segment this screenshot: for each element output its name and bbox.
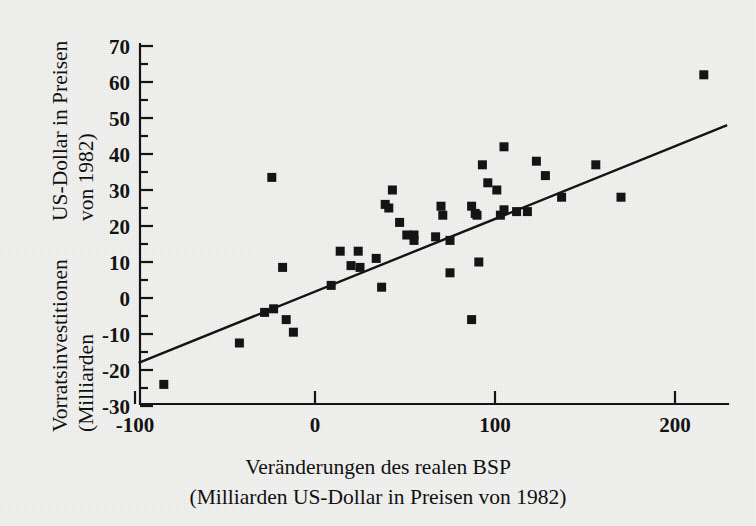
data-point (356, 263, 365, 272)
axes-group (140, 44, 728, 404)
x-tick-label-100: 100 (479, 413, 511, 437)
data-point (446, 268, 455, 277)
data-point (474, 258, 483, 267)
data-point (437, 202, 446, 211)
x-axis-title-line-2: (Milliarden US-Dollar in Preisen von 198… (0, 482, 756, 512)
data-point (438, 211, 447, 220)
data-point (269, 304, 278, 313)
data-point (388, 186, 397, 195)
data-point (467, 315, 476, 324)
data-point (336, 247, 345, 256)
data-point (523, 207, 532, 216)
y-axis-title: Vorratsinvestitionen (Milliarden US-Doll… (43, 12, 103, 432)
x-tick-label-200: 200 (659, 413, 691, 437)
data-point (500, 205, 509, 214)
data-point (699, 70, 708, 79)
data-point (159, 380, 168, 389)
data-point (591, 160, 600, 169)
data-point (384, 204, 393, 213)
x-axis-title-line-1: Veränderungen des realen BSP (0, 452, 756, 482)
y-tick-label-20: 20 (109, 215, 130, 239)
y-tick-label-60: 60 (109, 71, 130, 95)
data-point (347, 261, 356, 270)
data-point (289, 328, 298, 337)
data-point (446, 236, 455, 245)
data-point (492, 186, 501, 195)
scatter-plot: -30-20-10010203040506070-1000100200 (0, 0, 756, 526)
data-point (282, 315, 291, 324)
data-point (354, 247, 363, 256)
data-point (478, 160, 487, 169)
data-point (267, 173, 276, 182)
figure-canvas: -30-20-10010203040506070-1000100200 Vorr… (0, 0, 756, 526)
y-axis-title-line-1: Vorratsinvestitionen (Milliarden (47, 221, 99, 432)
tick-labels-group: -30-20-10010203040506070-1000100200 (102, 35, 691, 438)
data-point (473, 211, 482, 220)
regression-line (139, 125, 728, 363)
y-tick-label-50: 50 (109, 107, 130, 131)
data-point (532, 157, 541, 166)
data-point (327, 281, 336, 290)
y-tick-label-30: 30 (109, 179, 130, 203)
y-tick-label-40: 40 (109, 143, 130, 167)
x-tick-label-0: 0 (310, 413, 321, 437)
y-axis-title-line-2: US-Dollar in Preisen von 1982) (47, 12, 99, 221)
data-point (260, 308, 269, 317)
y-tick-label--10: -10 (102, 323, 130, 347)
data-point (235, 339, 244, 348)
y-tick-label--20: -20 (102, 359, 130, 383)
data-points-group (159, 70, 708, 389)
data-point (278, 263, 287, 272)
data-point (483, 178, 492, 187)
data-point (372, 254, 381, 263)
data-point (617, 193, 626, 202)
data-point (557, 193, 566, 202)
y-tick-label-70: 70 (109, 35, 130, 59)
x-tick-label--100: -100 (116, 413, 155, 437)
y-tick-label-0: 0 (120, 287, 131, 311)
data-point (395, 218, 404, 227)
x-axis-title: Veränderungen des realen BSP (Milliarden… (0, 452, 756, 512)
data-point (410, 236, 419, 245)
data-point (500, 142, 509, 151)
data-point (377, 283, 386, 292)
y-tick-label-10: 10 (109, 251, 130, 275)
regression-line-group (139, 125, 728, 363)
axis-spine (140, 44, 728, 404)
data-point (512, 207, 521, 216)
data-point (541, 171, 550, 180)
data-point (431, 232, 440, 241)
tick-marks-group (135, 46, 675, 406)
